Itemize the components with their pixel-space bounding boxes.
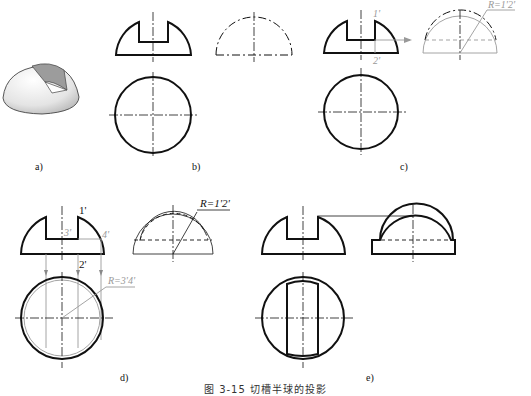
panel-c-side-view: R=1'2' <box>423 0 516 60</box>
panel-c-top-view <box>318 68 406 155</box>
point-4-label: 4' <box>102 229 110 240</box>
panel-b-label: b) <box>192 161 200 173</box>
panel-b-top-view <box>109 72 199 158</box>
radius-top-annotation: R=3'4' <box>107 275 136 286</box>
panel-e-side-view <box>372 203 455 262</box>
panel-a-isometric-view <box>3 64 79 114</box>
panel-b-front-view <box>116 12 191 62</box>
point-1-label: 1' <box>79 204 87 216</box>
figure-caption: 图 3-15 切槽半球的投影 <box>0 381 531 396</box>
panel-d-top-view: R=3'4' <box>15 272 136 368</box>
radius-annotation: R=1'2' <box>487 0 516 10</box>
panel-b-side-view-phantom <box>216 12 292 62</box>
panel-d-front-view: 1' 3' 4' 2' <box>21 204 110 348</box>
panel-d-side-view: R=1'2' <box>133 197 230 262</box>
point-1-label: 1' <box>373 8 381 19</box>
panel-c-front-view: 1' 2' <box>324 8 412 66</box>
point-3-label: 3' <box>63 227 72 238</box>
panel-c-label: c) <box>400 161 408 173</box>
panel-e-top-view <box>255 272 353 368</box>
point-2-label: 2' <box>373 55 381 66</box>
radius-side-annotation: R=1'2' <box>199 197 230 209</box>
panel-a-label: a) <box>35 161 43 173</box>
point-2-label: 2' <box>79 258 87 270</box>
